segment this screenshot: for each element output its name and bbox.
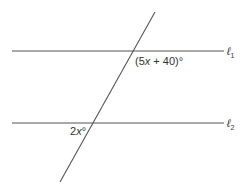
angle-top-label: (5x + 40)° <box>135 55 183 67</box>
angle-bottom-label: 2x° <box>70 125 86 137</box>
transversal-line <box>60 12 155 182</box>
line-l1-label: ℓ1 <box>226 45 235 59</box>
parallel-lines-diagram: ℓ1 ℓ2 (5x + 40)° 2x° <box>0 0 251 192</box>
line-l2-label: ℓ2 <box>226 117 235 131</box>
